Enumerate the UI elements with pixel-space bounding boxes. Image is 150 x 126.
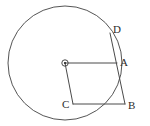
point-label-a: A: [120, 57, 128, 68]
point-label-b: B: [128, 100, 135, 111]
segment-b-to-d-line: [110, 33, 125, 104]
point-label-c: C: [62, 99, 69, 110]
center-marker-dot: [64, 62, 66, 64]
point-label-d: D: [113, 24, 121, 35]
geometry-figure: D A B C: [0, 0, 150, 126]
